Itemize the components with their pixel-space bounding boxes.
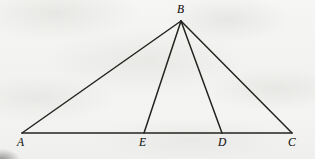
segment-ab — [22, 21, 181, 133]
vertex-label-d: D — [218, 137, 226, 149]
vertex-label-c: C — [288, 137, 296, 149]
cevian-bd — [181, 21, 222, 133]
cevian-be — [144, 21, 181, 133]
vertex-label-a: A — [17, 137, 24, 149]
triangle-diagram-svg — [0, 0, 315, 159]
vertex-label-b: B — [177, 4, 184, 16]
segment-bc — [181, 21, 292, 133]
segments-group — [22, 21, 292, 133]
geometry-figure: ABEDC — [0, 0, 315, 159]
vertex-label-e: E — [139, 137, 146, 149]
